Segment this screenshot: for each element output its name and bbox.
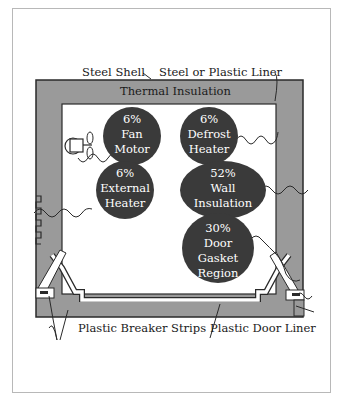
door-liner-label: Plastic Door Liner: [210, 321, 316, 335]
bubble-wall-insulation: 52% Wall Insulation: [180, 161, 266, 219]
svg-text:Fan: Fan: [121, 127, 143, 141]
svg-text:6%: 6%: [200, 112, 218, 126]
svg-text:52%: 52%: [210, 166, 236, 180]
steel-shell-label: Steel Shell: [82, 65, 145, 79]
svg-text:30%: 30%: [205, 221, 231, 235]
breaker-strips-label: Plastic Breaker Strips: [78, 321, 206, 335]
svg-text:6%: 6%: [123, 112, 141, 126]
insulation-label: Thermal Insulation: [120, 84, 231, 98]
svg-text:Door: Door: [204, 236, 233, 250]
liner-label: Steel or Plastic Liner: [159, 65, 283, 79]
bubble-external-heater: 6% External Heater: [96, 161, 154, 219]
svg-text:Heater: Heater: [105, 196, 146, 210]
svg-text:Motor: Motor: [114, 142, 150, 156]
svg-text:Insulation: Insulation: [194, 196, 253, 210]
bubble-door-gasket: 30% Door Gasket Region: [182, 213, 254, 283]
svg-text:6%: 6%: [116, 166, 134, 180]
svg-text:Defrost: Defrost: [187, 127, 231, 141]
svg-text:Heater: Heater: [189, 142, 230, 156]
svg-text:Wall: Wall: [210, 181, 235, 195]
svg-text:Gasket: Gasket: [198, 251, 239, 265]
bubble-fan-motor: 6% Fan Motor: [103, 107, 161, 165]
svg-text:External: External: [100, 181, 150, 195]
refrigerator-heat-gain-diagram: Steel Shell Steel or Plastic Liner Therm…: [0, 0, 341, 407]
bubble-defrost-heater: 6% Defrost Heater: [180, 107, 238, 165]
svg-text:Region: Region: [198, 266, 239, 280]
